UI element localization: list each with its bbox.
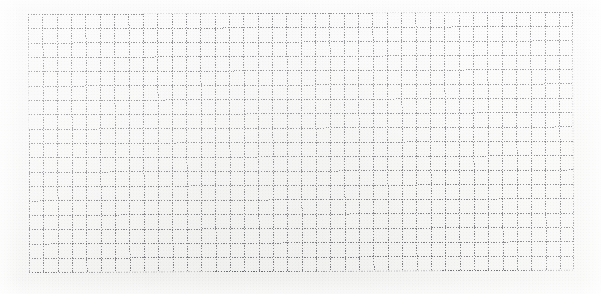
graph-paper-page [0, 0, 601, 294]
grid-line-layer [28, 12, 574, 273]
graph-paper-grid[interactable] [28, 12, 574, 273]
grid-horizontal-lines [28, 12, 574, 273]
